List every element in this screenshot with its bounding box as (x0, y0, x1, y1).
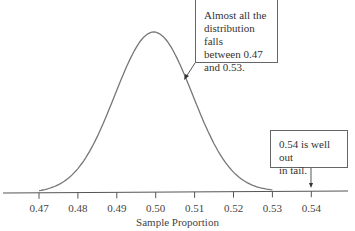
callout-line: distribution falls (204, 22, 271, 48)
callout-line: 0.54 is well out (279, 138, 343, 164)
x-tick-label: 0.54 (296, 202, 326, 214)
arrowhead-icon (309, 183, 313, 188)
chart-svg (0, 0, 355, 231)
x-axis-label: Sample Proportion (0, 216, 355, 228)
callout1-pointer (186, 63, 195, 77)
callout-tail: 0.54 is well out in tail. (270, 130, 348, 168)
x-tick-label: 0.52 (219, 202, 249, 214)
x-tick-label: 0.47 (24, 202, 54, 214)
x-tick-label: 0.53 (257, 202, 287, 214)
callout-line: Almost all the (204, 9, 271, 22)
callout-line: in tail. (279, 164, 343, 177)
callout-almost-all: Almost all the distribution falls betwee… (195, 0, 278, 63)
x-tick-label: 0.48 (63, 202, 93, 214)
chart-root: 0.470.480.490.500.510.520.530.54 Sample … (0, 0, 355, 231)
x-tick-label: 0.51 (180, 202, 210, 214)
callout-line: and 0.53. (204, 61, 271, 74)
x-axis-line (3, 191, 348, 193)
callout-line: between 0.47 (204, 48, 271, 61)
x-tick-label: 0.49 (102, 202, 132, 214)
x-tick-label: 0.50 (141, 202, 171, 214)
